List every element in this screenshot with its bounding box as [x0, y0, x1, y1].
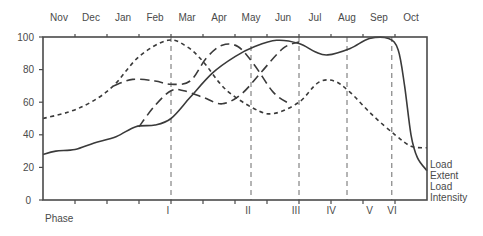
month-label: Nov — [50, 12, 68, 23]
phase-label: III — [292, 205, 300, 216]
month-label: Oct — [403, 12, 419, 23]
phase-label: V — [366, 205, 373, 216]
right-label-load-1: Load — [430, 159, 452, 170]
y-tick-label: 0 — [25, 195, 31, 206]
month-label: Jan — [115, 12, 131, 23]
y-tick-label: 80 — [23, 64, 35, 75]
right-label-load-2: Load — [430, 181, 452, 192]
y-axis: 020406080100 — [17, 32, 43, 206]
month-label: Jun — [275, 12, 291, 23]
month-label: Apr — [211, 12, 227, 23]
plot-frame — [43, 37, 427, 200]
phase-label: I — [167, 205, 170, 216]
month-label: Sep — [370, 12, 388, 23]
right-label-extent: Extent — [430, 170, 459, 181]
month-label: May — [242, 12, 261, 23]
phase-label: II — [245, 205, 251, 216]
phase-labels: IIIIIIIVVVI — [167, 205, 397, 216]
phase-label: VI — [387, 205, 396, 216]
month-label: Mar — [178, 12, 196, 23]
series-curve-long-dash — [113, 44, 289, 104]
y-tick-label: 60 — [23, 97, 35, 108]
month-labels: NovDecJanFebMarAprMayJunJulAugSepOct — [50, 12, 419, 23]
month-label: Dec — [82, 12, 100, 23]
data-curves — [43, 37, 427, 170]
phase-label: IV — [326, 205, 336, 216]
y-tick-label: 40 — [23, 129, 35, 140]
load-chart: 020406080100 NovDecJanFebMarAprMayJunJul… — [0, 0, 483, 236]
month-label: Jul — [309, 12, 322, 23]
series-curve-solid — [43, 37, 427, 170]
month-label: Feb — [146, 12, 164, 23]
right-label-intensity: Intensity — [430, 192, 467, 203]
y-tick-label: 20 — [23, 162, 35, 173]
y-tick-label: 100 — [17, 32, 34, 43]
month-label: Aug — [338, 12, 356, 23]
phase-axis-label: Phase — [45, 213, 74, 224]
